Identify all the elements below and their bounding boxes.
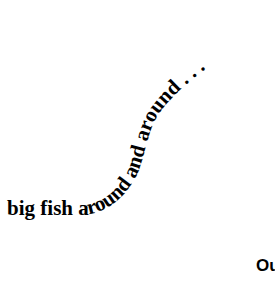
clipped-corner-text: Ou	[256, 257, 275, 274]
curved-text-path: big fish around and around . . .	[7, 53, 209, 220]
curved-text: big fish around and around . . .	[7, 53, 209, 220]
canvas: big fish around and around . . .	[0, 0, 275, 290]
curved-text-graphic: big fish around and around . . .	[0, 0, 275, 290]
